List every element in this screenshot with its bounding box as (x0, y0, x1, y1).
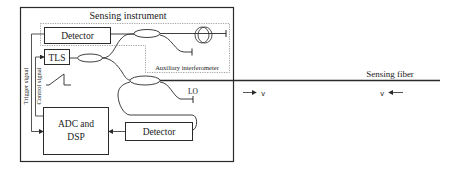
sawtooth-waveform-icon (46, 74, 71, 85)
detector-bottom-label: Detector (143, 127, 177, 137)
adc-dsp-label-line1: ADC and (58, 119, 94, 129)
fiber-coil-icon (195, 27, 209, 43)
sensing-fiber-label: Sensing fiber (366, 69, 414, 79)
ofdr-diagram: Sensing instrument Auxiliary interferome… (0, 0, 456, 172)
coupler-top (134, 30, 160, 38)
control-signal-label: Control signal (35, 67, 42, 104)
trigger-signal-label: Trigger signal (22, 68, 29, 105)
v-backward-label: v (380, 89, 384, 98)
detector-top-label: Detector (61, 31, 95, 41)
v-forward-label: v (261, 89, 265, 98)
sensing-instrument-title: Sensing instrument (90, 10, 167, 21)
adc-dsp-block (44, 108, 109, 155)
lo-label: LO (188, 87, 199, 96)
adc-dsp-label-line2: DSP (67, 132, 84, 142)
coupler-tls (78, 54, 103, 62)
aux-interferometer-label: Auxiliary interferometer (155, 64, 220, 71)
coupler-bottom (130, 76, 160, 85)
tls-label: TLS (49, 53, 66, 63)
